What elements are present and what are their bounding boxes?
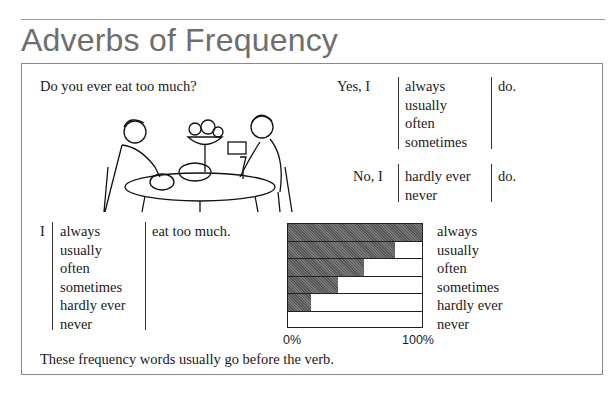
dining-illustration-icon — [100, 97, 300, 212]
yes-suffix: do. — [498, 77, 516, 96]
statement-adverb: usually — [60, 241, 126, 260]
axis-tick-min: 0% — [283, 333, 301, 347]
chart-bar-fill — [288, 294, 311, 311]
chart-bar — [287, 223, 423, 241]
chart-label: hardly ever — [437, 296, 503, 315]
no-divider-right — [491, 164, 492, 202]
no-adverb-list: hardly ever never — [405, 167, 471, 204]
statement-divider-right — [145, 222, 146, 330]
chart-label: sometimes — [437, 278, 503, 297]
no-adverb: never — [405, 186, 471, 205]
yes-divider-left — [398, 77, 399, 149]
statement-divider-left — [52, 222, 53, 330]
statement-adverb-list: always usually often sometimes hardly ev… — [60, 222, 126, 333]
question-text: Do you ever eat too much? — [40, 77, 197, 96]
yes-adverb: often — [405, 114, 467, 133]
chart-bar — [287, 258, 423, 276]
statement-adverb: always — [60, 222, 126, 241]
chart-bar-fill — [288, 242, 395, 259]
statement-adverb: hardly ever — [60, 296, 126, 315]
no-prefix: No, I — [353, 167, 383, 186]
yes-adverb: sometimes — [405, 133, 467, 152]
axis-tick-max: 100% — [402, 333, 434, 347]
header-rule — [21, 19, 605, 20]
statement-adverb: often — [60, 259, 126, 278]
chart-label: often — [437, 259, 503, 278]
chart-bar — [287, 276, 423, 294]
chart-bar-fill — [288, 224, 422, 241]
statement-adverb: never — [60, 315, 126, 334]
chart-label: never — [437, 315, 503, 334]
no-adverb: hardly ever — [405, 167, 471, 186]
yes-adverb-list: always usually often sometimes — [405, 77, 467, 151]
chart-label: always — [437, 222, 503, 241]
statement-adverb: sometimes — [60, 278, 126, 297]
yes-divider-right — [491, 77, 492, 149]
no-divider-left — [398, 164, 399, 202]
chart-bar — [287, 241, 423, 259]
statement-predicate: eat too much. — [152, 222, 231, 241]
yes-adverb: usually — [405, 96, 467, 115]
chart-label: usually — [437, 241, 503, 260]
chart-category-labels: always usually often sometimes hardly ev… — [437, 222, 503, 333]
yes-adverb: always — [405, 77, 467, 96]
frequency-bar-chart — [287, 223, 423, 328]
chart-bar — [287, 311, 423, 329]
note-text: These frequency words usually go before … — [40, 350, 334, 369]
chart-bar-fill — [288, 277, 338, 294]
yes-prefix: Yes, I — [337, 77, 370, 96]
chart-bar-fill — [288, 259, 364, 276]
chart-bar — [287, 293, 423, 311]
no-suffix: do. — [498, 167, 516, 186]
page-title: Adverbs of Frequency — [21, 22, 338, 59]
statement-subject: I — [40, 222, 45, 241]
